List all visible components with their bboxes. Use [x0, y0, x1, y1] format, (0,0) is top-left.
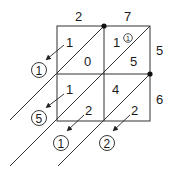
- result-left-1: 1: [36, 64, 43, 78]
- arrow-4: [114, 115, 130, 130]
- lattice-diagram: 2 7 5 6 1 0 1 5 1 1 2 4 2 1 5 1 2: [0, 0, 173, 176]
- arrow-2: [47, 94, 64, 107]
- corner-dot-right: [147, 71, 152, 76]
- cell-1-1-ones: 2: [131, 103, 138, 118]
- right-digit-2: 6: [156, 92, 163, 107]
- cell-0-0-tens: 1: [66, 35, 73, 50]
- cell-0-1-tens: 1: [113, 35, 120, 50]
- lattice-svg: 2 7 5 6 1 0 1 5 1 1 2 4 2 1 5 1 2: [0, 0, 173, 176]
- cell-1-0-ones: 2: [85, 103, 92, 118]
- top-digit-1: 2: [75, 9, 82, 24]
- diagonal-2: [10, 26, 150, 166]
- arrow-1: [47, 45, 64, 59]
- cell-0-1-carry: 1: [126, 35, 130, 42]
- result-circles: [32, 63, 115, 151]
- top-digit-2: 7: [124, 9, 131, 24]
- cell-1-1-tens: 4: [112, 82, 119, 97]
- corner-dot-top: [101, 23, 106, 28]
- arrow-3: [68, 115, 84, 130]
- result-left-2: 5: [36, 112, 43, 126]
- cell-1-0-tens: 1: [66, 82, 73, 97]
- result-bottom-1: 1: [58, 137, 65, 151]
- cell-0-1-ones: 5: [130, 54, 137, 69]
- result-bottom-2: 2: [104, 137, 111, 151]
- right-digit-1: 5: [156, 43, 163, 58]
- diagonals: [10, 26, 150, 166]
- cell-0-0-ones: 0: [84, 54, 91, 69]
